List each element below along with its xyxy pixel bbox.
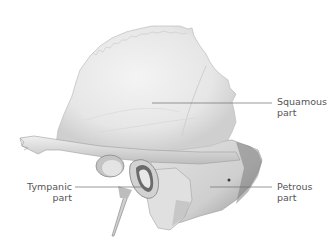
- label-tympanic-part: Tympanic part: [26, 181, 72, 203]
- label-squamous-line2: part: [277, 107, 327, 118]
- temporal-bone-figure: Squamous part Tympanic part Petrous part: [0, 0, 329, 248]
- label-petrous-part: Petrous part: [277, 181, 312, 203]
- label-squamous-part: Squamous part: [277, 96, 327, 118]
- temporal-bone-illustration: [0, 0, 329, 248]
- label-tympanic-line1: Tympanic: [26, 181, 72, 192]
- tympanic-region: [96, 155, 159, 236]
- label-squamous-line1: Squamous: [277, 96, 327, 107]
- label-petrous-line2: part: [277, 192, 312, 203]
- label-petrous-line1: Petrous: [277, 181, 312, 192]
- squamous-region: [56, 26, 236, 152]
- label-tympanic-line2: part: [26, 192, 72, 203]
